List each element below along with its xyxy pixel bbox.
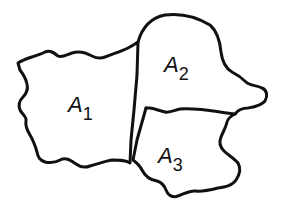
region-a1-label: A1 — [66, 92, 93, 124]
region-a3-outline — [133, 108, 240, 197]
region-a3-label: A3 — [156, 143, 183, 175]
region-a2-outline — [138, 14, 267, 114]
regions-diagram: A1 A2 A3 — [0, 0, 281, 216]
region-a2-label: A2 — [162, 52, 189, 84]
